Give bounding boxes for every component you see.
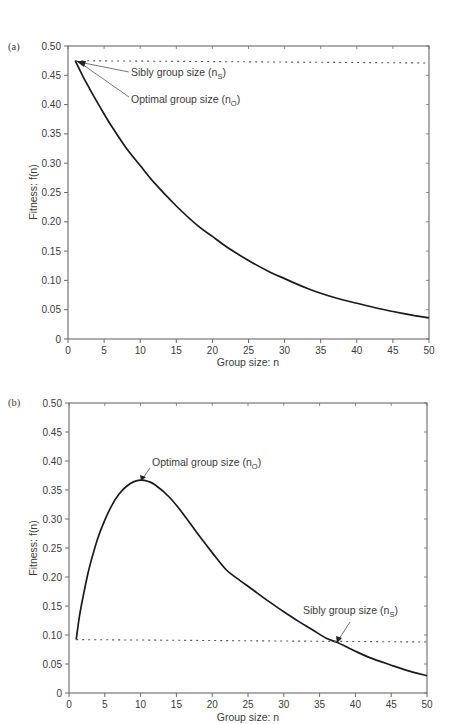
- plot-lines-a: [75, 61, 429, 318]
- x-tick-label: 0: [65, 345, 71, 356]
- x-axis-title-b: Group size: n: [217, 711, 280, 723]
- panel-label-b: (b): [8, 397, 21, 409]
- arrow-line-sibly-b: [339, 622, 350, 639]
- y-tick-label: 0.25: [43, 543, 63, 554]
- x-tick-label: 45: [386, 699, 398, 710]
- y-tick-label: 0.10: [42, 275, 62, 286]
- chart-panel-b: (b) 00.050.100.150.200.250.300.350.400.4…: [8, 397, 433, 723]
- fitness-curve: [75, 61, 429, 318]
- plot-lines-b: [76, 480, 427, 676]
- axes-frame-a: [68, 46, 429, 339]
- y-axis-ticks-b: 00.050.100.150.200.250.300.350.400.450.5…: [43, 398, 427, 699]
- x-tick-label: 35: [315, 345, 327, 356]
- annotation-sibly-b: Sibly group size (nS): [303, 604, 398, 619]
- y-tick-label: 0.45: [42, 70, 62, 81]
- annotations-b: Optimal group size (nO) Sibly group size…: [140, 456, 398, 643]
- panel-label-a: (a): [8, 41, 20, 53]
- x-tick-label: 30: [278, 699, 290, 710]
- x-tick-label: 35: [314, 699, 326, 710]
- x-axis-title-a: Group size: n: [217, 356, 280, 368]
- y-tick-label: 0.35: [43, 485, 63, 496]
- x-tick-label: 25: [243, 345, 255, 356]
- x-tick-label: 10: [135, 699, 147, 710]
- y-axis-title-b: Fitness: f(n): [27, 520, 39, 575]
- y-tick-label: 0.30: [43, 514, 63, 525]
- x-tick-label: 25: [242, 699, 254, 710]
- figure: (a) 00.050.100.150.200.250.300.350.400.4…: [0, 0, 451, 724]
- x-tick-label: 15: [171, 345, 183, 356]
- y-tick-label: 0.10: [43, 630, 63, 641]
- annotations-a: Sibly group size (nS) Optimal group size…: [76, 61, 240, 108]
- y-tick-label: 0: [55, 334, 61, 345]
- sibly-reference-dotted-line: [76, 640, 427, 642]
- x-axis-ticks-b: 05101520253035404550: [66, 403, 433, 710]
- y-tick-label: 0.05: [42, 304, 62, 315]
- x-tick-label: 5: [101, 345, 107, 356]
- y-tick-label: 0.35: [42, 128, 62, 139]
- axes-frame-b: [69, 403, 427, 693]
- x-tick-label: 0: [66, 699, 72, 710]
- y-tick-label: 0.20: [43, 572, 63, 583]
- y-tick-label: 0.45: [43, 427, 63, 438]
- x-tick-label: 45: [387, 345, 399, 356]
- annotation-sibly-a: Sibly group size (nS): [131, 66, 226, 81]
- sibly-reference-dotted-line: [75, 61, 429, 63]
- chart-panel-a: (a) 00.050.100.150.200.250.300.350.400.4…: [8, 41, 435, 369]
- fitness-curve: [76, 480, 427, 676]
- y-axis-title-a: Fitness: f(n): [27, 164, 39, 219]
- annotation-optimal-a: Optimal group size (nO): [131, 93, 240, 108]
- x-tick-label: 40: [350, 699, 362, 710]
- y-tick-label: 0.15: [42, 246, 62, 257]
- y-tick-label: 0.50: [42, 41, 62, 52]
- x-tick-label: 40: [351, 345, 363, 356]
- y-tick-label: 0.40: [43, 456, 63, 467]
- y-tick-label: 0.30: [42, 158, 62, 169]
- annotation-optimal-b: Optimal group size (nO): [152, 456, 261, 471]
- y-tick-label: 0.40: [42, 99, 62, 110]
- x-tick-label: 50: [423, 345, 435, 356]
- y-tick-label: 0.05: [43, 659, 63, 670]
- x-tick-label: 50: [421, 699, 433, 710]
- x-tick-label: 20: [207, 345, 219, 356]
- y-axis-ticks-a: 00.050.100.150.200.250.300.350.400.450.5…: [42, 41, 429, 345]
- y-tick-label: 0.50: [43, 398, 63, 409]
- x-tick-label: 5: [102, 699, 108, 710]
- x-tick-label: 30: [279, 345, 291, 356]
- plot-frame: [69, 403, 427, 693]
- x-tick-label: 20: [207, 699, 219, 710]
- y-tick-label: 0.20: [42, 216, 62, 227]
- x-tick-label: 10: [135, 345, 147, 356]
- plot-frame: [68, 46, 429, 339]
- y-tick-label: 0.25: [42, 187, 62, 198]
- x-tick-label: 15: [171, 699, 183, 710]
- y-tick-label: 0.15: [43, 601, 63, 612]
- y-tick-label: 0: [56, 688, 62, 699]
